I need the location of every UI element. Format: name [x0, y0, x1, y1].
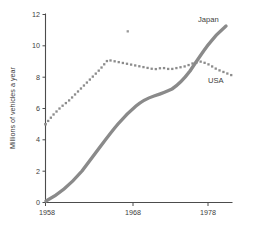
usa-data-point — [89, 78, 91, 80]
stray-point-marker — [127, 30, 129, 32]
usa-data-point — [47, 120, 49, 122]
usa-data-point — [175, 67, 177, 69]
usa-data-point — [159, 67, 161, 69]
usa-data-point — [92, 75, 94, 77]
usa-data-point — [74, 93, 76, 95]
usa-data-point — [211, 65, 213, 67]
y-tick-label-6: 6 — [36, 104, 40, 113]
axis-lines — [46, 14, 233, 203]
usa-data-point — [113, 60, 115, 62]
usa-data-point — [163, 67, 165, 69]
usa-data-point — [207, 63, 209, 65]
usa-data-point — [98, 70, 100, 72]
usa-data-point — [52, 113, 54, 115]
usa-data-point — [80, 87, 82, 89]
y-tick-label-0: 0 — [36, 198, 40, 207]
usa-data-point — [130, 63, 132, 65]
usa-data-point — [77, 90, 79, 92]
usa-data-point — [200, 60, 202, 62]
usa-data-point — [146, 67, 148, 69]
usa-data-point — [151, 68, 153, 70]
usa-data-point — [142, 66, 144, 68]
usa-data-point — [171, 68, 173, 70]
series-usa — [44, 59, 232, 125]
usa-data-point — [126, 63, 128, 65]
y-tick-label-2: 2 — [36, 167, 40, 176]
y-axis-title: Millions of vehicles a year — [8, 66, 17, 148]
usa-data-point — [103, 63, 105, 65]
usa-data-point — [109, 59, 111, 61]
usa-data-point — [195, 61, 197, 63]
usa-data-point — [71, 96, 73, 98]
line-chart: 0 2 4 6 8 10 12 1958 1968 1978 Millions … — [0, 0, 256, 233]
usa-data-point — [61, 105, 63, 107]
usa-data-point — [118, 61, 120, 63]
usa-data-point — [167, 68, 169, 70]
usa-data-point — [203, 62, 205, 64]
chart-container: 0 2 4 6 8 10 12 1958 1968 1978 Millions … — [0, 0, 256, 233]
usa-data-point — [138, 65, 140, 67]
usa-data-point — [134, 64, 136, 66]
usa-data-point — [86, 81, 88, 83]
y-axis-tick-labels: 0 2 4 6 8 10 12 — [32, 10, 40, 207]
x-axis-tick-labels: 1958 1968 1978 — [39, 208, 216, 217]
y-tick-label-4: 4 — [36, 135, 40, 144]
usa-data-point — [122, 62, 124, 64]
stray-data-point — [127, 30, 129, 32]
usa-data-point — [68, 99, 70, 101]
x-tick-label-1968: 1968 — [125, 208, 141, 217]
usa-data-point — [226, 72, 228, 74]
usa-data-point — [230, 74, 232, 76]
x-tick-label-1958: 1958 — [39, 208, 55, 217]
usa-data-point — [95, 72, 97, 74]
usa-data-point — [222, 71, 224, 73]
series-japan — [46, 26, 226, 201]
usa-data-point — [83, 84, 85, 86]
usa-data-point — [106, 60, 108, 62]
usa-data-point — [58, 107, 60, 109]
series-label-usa: USA — [208, 76, 225, 85]
usa-data-point — [100, 66, 102, 68]
japan-line — [46, 26, 226, 201]
usa-data-point — [50, 117, 52, 119]
y-tick-label-12: 12 — [32, 10, 40, 19]
usa-data-point — [183, 65, 185, 67]
usa-data-point — [215, 67, 217, 69]
series-label-japan: Japan — [198, 15, 219, 24]
usa-data-point — [44, 123, 46, 125]
usa-data-point — [187, 64, 189, 66]
usa-data-point — [191, 62, 193, 64]
usa-data-point — [55, 110, 57, 112]
y-tick-label-8: 8 — [36, 73, 40, 82]
usa-data-point — [218, 69, 220, 71]
x-tick-label-1978: 1978 — [200, 208, 216, 217]
plot-axes: 0 2 4 6 8 10 12 1958 1968 1978 Millions … — [8, 10, 233, 217]
usa-data-point — [65, 102, 67, 104]
usa-data-point — [179, 66, 181, 68]
y-tick-label-10: 10 — [32, 41, 40, 50]
usa-data-point — [155, 68, 157, 70]
